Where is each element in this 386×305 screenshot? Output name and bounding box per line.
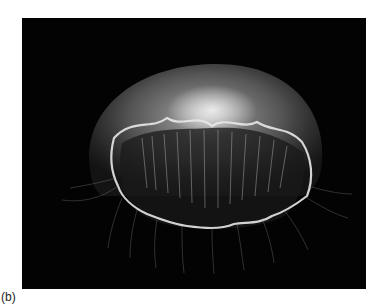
jellyfish-photo bbox=[22, 18, 366, 289]
figure-caption-label: (b) bbox=[1, 290, 16, 304]
jellyfish-illustration bbox=[22, 18, 366, 289]
